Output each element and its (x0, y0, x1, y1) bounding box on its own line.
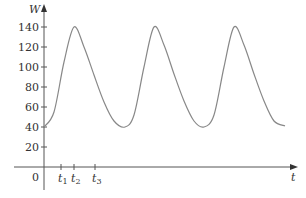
y-axis-arrow-icon (41, 4, 47, 12)
x-axis-title: t (291, 171, 296, 184)
y-axis-title: W (29, 3, 42, 16)
y-tick-label: 60 (25, 101, 39, 114)
x-tick-label: t3 (92, 172, 102, 186)
x-tick-label: t2 (71, 172, 81, 186)
y-ticks: 20406080100120140 (18, 21, 47, 154)
y-tick-label: 140 (18, 21, 39, 34)
origin-label: 0 (32, 171, 39, 184)
data-curve (44, 26, 285, 127)
y-tick-label: 20 (25, 141, 39, 154)
y-tick-label: 80 (25, 81, 39, 94)
y-tick-label: 40 (25, 121, 39, 134)
y-tick-label: 120 (18, 41, 39, 54)
axes (14, 4, 298, 190)
y-tick-label: 100 (18, 61, 39, 74)
x-axis-arrow-icon (290, 164, 298, 170)
chart: 20406080100120140 t1t2t3 W t 0 (0, 0, 306, 198)
x-tick-label: t1 (58, 172, 68, 186)
